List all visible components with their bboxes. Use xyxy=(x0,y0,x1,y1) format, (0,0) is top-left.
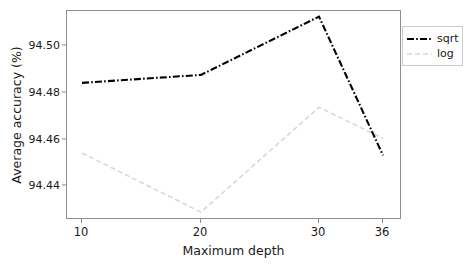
x-axis-label: Maximum depth xyxy=(66,243,401,258)
legend: sqrt log xyxy=(402,26,463,66)
x-tick-mark xyxy=(382,219,383,223)
series-line-log xyxy=(82,107,383,212)
x-tick-label: 20 xyxy=(180,225,220,239)
y-tick-label: 94.46 xyxy=(14,132,60,145)
x-tick-label: 30 xyxy=(298,225,338,239)
legend-item-sqrt: sqrt xyxy=(407,31,458,46)
legend-label-sqrt: sqrt xyxy=(437,33,459,44)
x-tick-mark xyxy=(200,219,201,223)
legend-swatch-dashed-icon xyxy=(407,49,432,59)
y-axis-label-container: Average accuracy (%) xyxy=(0,10,14,219)
x-tick-mark xyxy=(318,219,319,223)
plot-area: sqrt log xyxy=(66,10,401,219)
legend-swatch-dashdot-icon xyxy=(407,34,432,44)
y-tick-label: 94.44 xyxy=(14,179,60,192)
x-tick-label: 36 xyxy=(362,225,402,239)
x-tick-label: 10 xyxy=(61,225,101,239)
plot-lines xyxy=(67,11,402,220)
y-tick-label: 94.48 xyxy=(14,85,60,98)
series-line-sqrt xyxy=(82,17,383,156)
legend-label-log: log xyxy=(437,48,454,59)
x-tick-mark xyxy=(81,219,82,223)
y-tick-label: 94.50 xyxy=(14,39,60,52)
legend-item-log: log xyxy=(407,46,458,61)
